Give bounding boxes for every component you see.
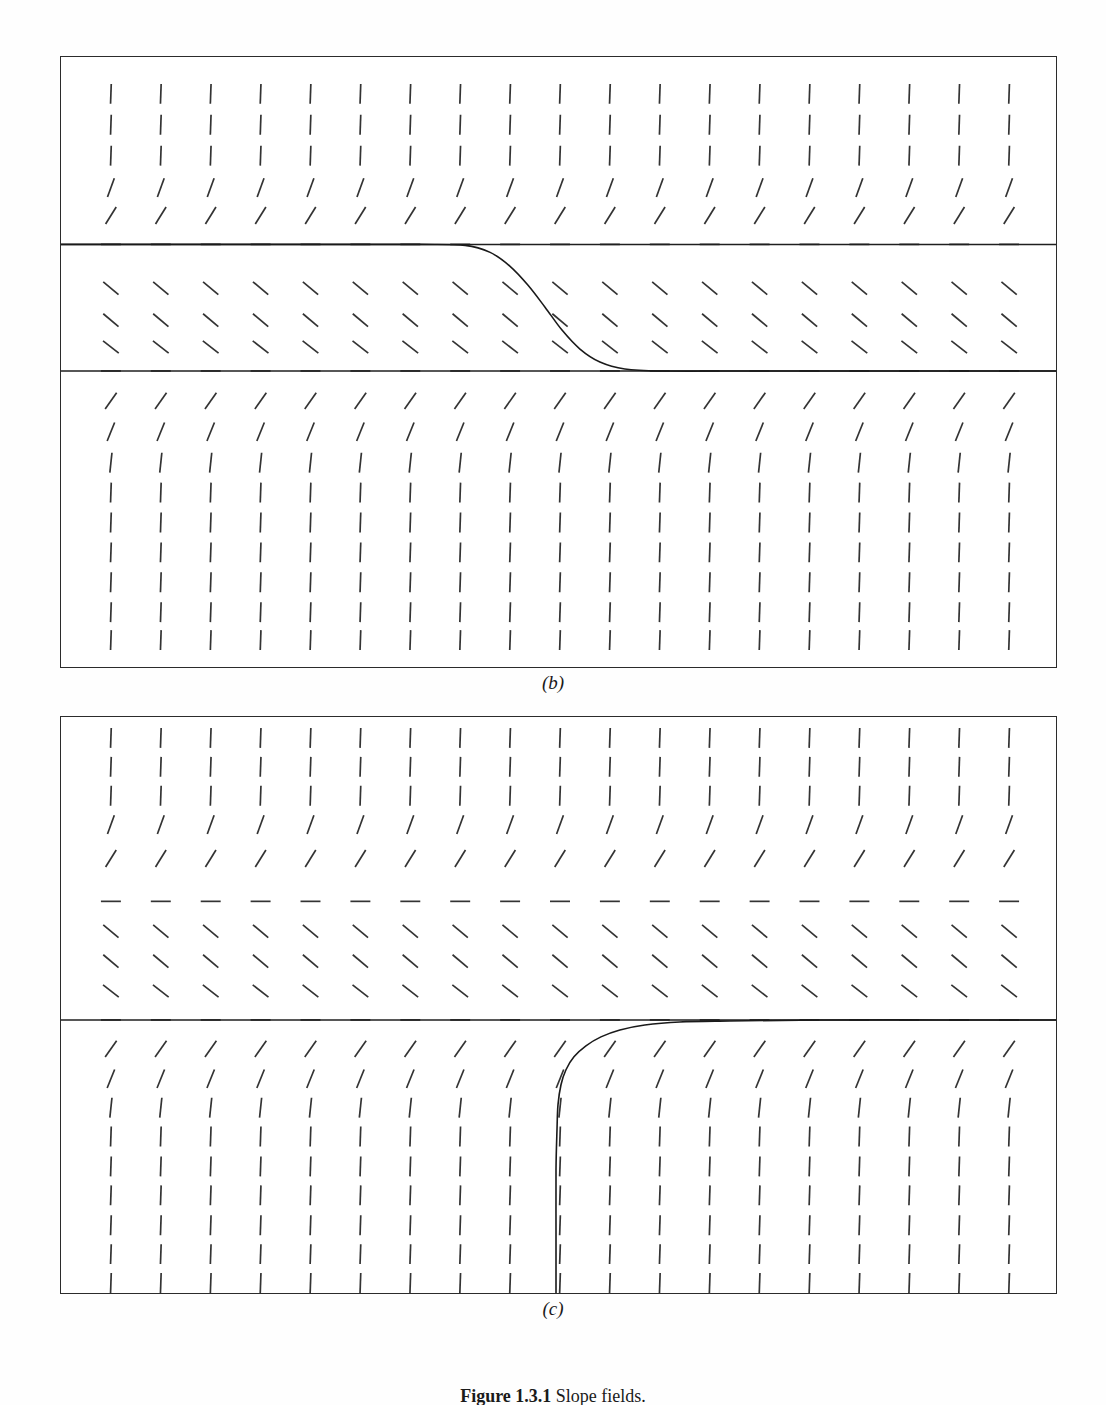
slope-tick <box>859 1273 860 1293</box>
slope-tick <box>852 314 867 327</box>
slope-tick <box>210 453 212 473</box>
slope-tick <box>759 513 760 533</box>
slope-tick <box>310 572 311 592</box>
slope-tick <box>702 925 717 938</box>
slope-tick <box>510 728 511 748</box>
slope-tick <box>505 207 516 224</box>
slope-tick <box>303 314 318 327</box>
figure-caption-number: Figure 1.3.1 <box>460 1386 551 1405</box>
slope-tick <box>310 630 311 650</box>
slope-tick <box>260 146 261 166</box>
slope-tick <box>709 542 710 562</box>
slope-tick <box>709 757 710 777</box>
slope-tick <box>610 728 611 748</box>
slope-tick <box>460 757 461 777</box>
slope-tick <box>610 1273 611 1293</box>
slope-tick <box>906 178 913 197</box>
slope-tick <box>210 757 211 777</box>
slope-tick <box>909 602 910 622</box>
slope-tick <box>659 572 660 592</box>
slope-tick <box>307 1070 314 1088</box>
slope-tick <box>559 453 561 473</box>
slope-tick <box>355 850 366 867</box>
slope-tick <box>257 423 264 441</box>
slope-tick <box>410 115 411 135</box>
slope-tick <box>859 146 860 166</box>
slope-tick <box>410 1215 411 1235</box>
slope-tick <box>709 786 710 806</box>
slope-tick <box>854 1041 865 1057</box>
slope-tick <box>260 757 261 777</box>
slope-tick <box>606 178 613 197</box>
slope-tick <box>410 1273 411 1293</box>
slope-tick <box>203 985 219 997</box>
slope-tick <box>610 1215 611 1235</box>
slope-tick <box>854 850 865 867</box>
slope-tick <box>310 542 311 562</box>
slope-tick <box>859 483 860 503</box>
slope-tick <box>659 84 660 104</box>
slope-tick <box>157 423 164 441</box>
slope-tick <box>103 282 118 295</box>
slope-tick <box>909 483 910 503</box>
slope-tick <box>709 572 710 592</box>
solution-curve <box>61 244 1056 371</box>
slope-tick <box>353 925 368 938</box>
slope-tick <box>502 925 517 938</box>
slope-tick <box>103 341 119 353</box>
slope-tick <box>654 393 665 409</box>
slope-tick <box>510 630 511 650</box>
slope-tick <box>360 483 361 503</box>
slope-tick <box>659 1244 660 1264</box>
slope-tick <box>360 146 361 166</box>
slope-tick <box>959 542 960 562</box>
slope-tick <box>253 314 268 327</box>
slope-tick <box>357 178 364 197</box>
slope-tick <box>909 728 910 748</box>
slope-tick <box>610 115 611 135</box>
slope-tick <box>859 630 860 650</box>
slope-tick <box>210 1098 212 1118</box>
slope-tick <box>111 513 112 533</box>
slope-tick <box>460 630 461 650</box>
slope-tick <box>560 146 561 166</box>
slope-tick <box>111 572 112 592</box>
slope-tick <box>1009 1127 1010 1147</box>
slope-tick <box>759 1244 760 1264</box>
slope-tick <box>160 602 161 622</box>
slope-tick <box>610 1244 611 1264</box>
slope-tick <box>809 542 810 562</box>
slope-tick <box>959 1244 960 1264</box>
slope-tick <box>107 815 114 834</box>
slope-tick <box>610 513 611 533</box>
slope-tick <box>111 728 112 748</box>
slope-tick <box>405 393 416 409</box>
slope-tick <box>809 1185 810 1205</box>
slope-tick <box>604 1041 615 1057</box>
slope-tick <box>157 1070 164 1088</box>
slope-tick <box>111 84 112 104</box>
slope-tick <box>606 815 613 834</box>
slope-tick <box>210 483 211 503</box>
figure-page: (b) (c) Figure 1.3.1 Slope fields. <box>0 0 1106 1405</box>
slope-tick <box>1009 542 1010 562</box>
slope-tick <box>357 1070 364 1088</box>
slope-tick <box>952 925 967 938</box>
slope-tick <box>560 728 561 748</box>
slope-tick <box>602 341 618 353</box>
slope-tick <box>210 572 211 592</box>
slope-tick <box>502 955 517 968</box>
slope-tick <box>203 341 219 353</box>
slope-tick <box>659 728 660 748</box>
slope-tick <box>1001 925 1016 938</box>
slope-tick <box>756 423 763 441</box>
slope-tick <box>403 282 418 295</box>
slope-tick <box>552 985 568 997</box>
slope-tick <box>852 925 867 938</box>
slope-tick <box>155 1041 166 1057</box>
slope-tick <box>609 1098 611 1118</box>
slope-tick <box>210 1127 211 1147</box>
slope-tick <box>260 84 261 104</box>
slope-tick <box>105 393 116 409</box>
slope-tick <box>654 1041 665 1057</box>
